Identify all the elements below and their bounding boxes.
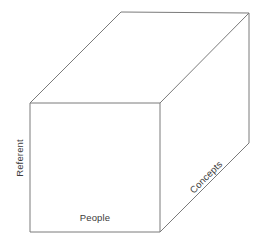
axis-label-people: People (80, 213, 110, 223)
axis-label-referent: Referent (15, 139, 25, 177)
diagram-canvas: Referent People Concepts (0, 0, 264, 247)
cube-svg (0, 0, 264, 247)
